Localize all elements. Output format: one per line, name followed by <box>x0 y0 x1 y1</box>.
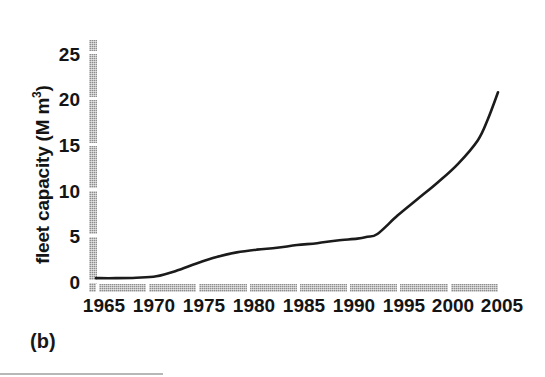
figure-panel: fleet capacity (M m3) 0 5 10 15 20 25 19… <box>0 0 545 377</box>
fleet-capacity-line-series <box>0 0 545 377</box>
panel-caption: (b) <box>30 330 56 353</box>
bottom-rule <box>0 373 163 375</box>
series-path <box>96 92 498 278</box>
